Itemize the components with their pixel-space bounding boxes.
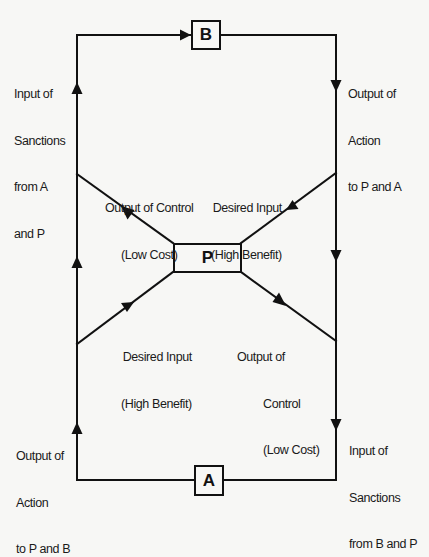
label-output-of-control-low-cost-upper: Output of Control (Low Cost) bbox=[105, 170, 193, 279]
label-line: from A bbox=[14, 180, 65, 196]
node-a: A bbox=[194, 465, 224, 496]
label-line: Output of bbox=[16, 449, 70, 465]
label-line: Input of bbox=[349, 444, 417, 460]
label-line: Sanctions bbox=[349, 491, 417, 507]
arrow-down-right-icon bbox=[273, 293, 287, 307]
label-desired-input-high-benefit-lower: Desired Input (High Benefit) bbox=[121, 319, 192, 428]
label-output-of-control-low-cost-lower: Output of Control (Low Cost) bbox=[237, 319, 319, 474]
label-line: (High Benefit) bbox=[211, 248, 282, 264]
node-a-label: A bbox=[203, 471, 215, 491]
arrow-up-icon bbox=[72, 82, 83, 94]
label-line: and P bbox=[14, 227, 65, 243]
arrow-up-icon bbox=[72, 256, 83, 268]
node-b-label: B bbox=[200, 25, 212, 45]
node-b: B bbox=[191, 20, 221, 50]
label-line: Desired Input bbox=[121, 350, 192, 366]
label-desired-input-high-benefit-upper: Desired Input (High Benefit) bbox=[211, 170, 282, 279]
arrow-up-icon bbox=[72, 422, 83, 434]
label-line: Input of bbox=[14, 87, 65, 103]
label-line: to P and B bbox=[16, 542, 70, 557]
label-line: (High Benefit) bbox=[121, 397, 192, 413]
label-line: to P and A bbox=[348, 180, 401, 196]
label-line: Action bbox=[348, 134, 401, 150]
label-output-action-to-p-b: Output of Action to P and B bbox=[16, 418, 70, 557]
label-line: Output of bbox=[237, 350, 319, 366]
label-line: Control bbox=[237, 397, 319, 413]
label-line: (Low Cost) bbox=[237, 443, 319, 459]
label-line: Output of bbox=[348, 87, 401, 103]
label-line: Sanctions bbox=[14, 134, 65, 150]
arrow-down-icon bbox=[331, 80, 342, 92]
label-line: Output of Control bbox=[105, 201, 193, 217]
label-line: Desired Input bbox=[211, 201, 282, 217]
label-input-sanctions-from-a-p: Input of Sanctions from A and P bbox=[14, 56, 65, 258]
arrow-right-icon bbox=[180, 30, 191, 41]
label-output-action-to-p-a: Output of Action to P and A bbox=[348, 56, 401, 211]
label-line: from B and P bbox=[349, 537, 417, 553]
arrow-down-icon bbox=[331, 419, 342, 431]
arrow-down-icon bbox=[331, 250, 342, 262]
label-input-sanctions-from-b-p: Input of Sanctions from B and P bbox=[349, 413, 417, 557]
label-line: (Low Cost) bbox=[105, 248, 193, 264]
label-line: Action bbox=[16, 496, 70, 512]
